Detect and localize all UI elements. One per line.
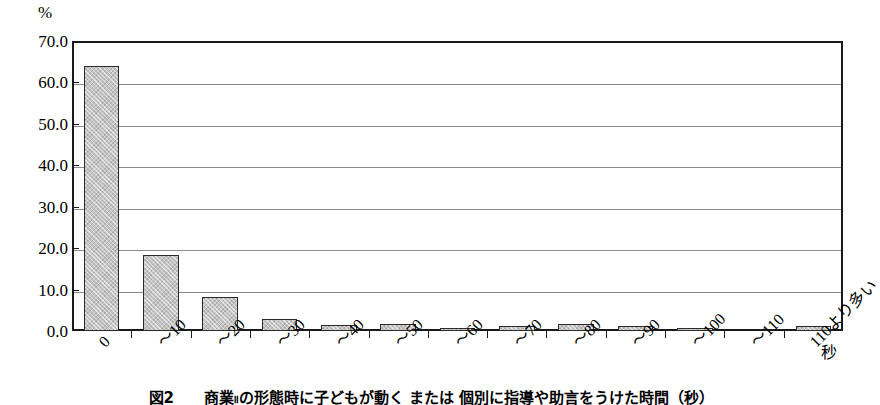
gridline xyxy=(74,209,841,210)
y-axis-unit-label: % xyxy=(38,4,52,21)
gridline xyxy=(74,167,841,168)
y-axis-tick-mark xyxy=(72,290,79,291)
y-axis-tick-label: 10.0 xyxy=(2,282,68,299)
y-axis-tick-label: 0.0 xyxy=(2,323,68,340)
y-axis-tick-mark xyxy=(72,82,79,83)
y-axis-tick-label: 70.0 xyxy=(2,33,68,50)
x-axis-unit-label: 秒 xyxy=(821,345,837,361)
y-axis-tick-label: 60.0 xyxy=(2,74,68,91)
x-axis-tick-label: 0 xyxy=(96,333,113,350)
y-axis-tick-label: 50.0 xyxy=(2,116,68,133)
y-axis-tick-mark xyxy=(72,165,79,166)
x-axis-ticks: 0～10～20～30～40～50～60～70～80～90～100～110110よ… xyxy=(72,331,843,391)
y-axis-tick-label: 20.0 xyxy=(2,240,68,257)
y-axis-tick-mark xyxy=(72,207,79,208)
gridline xyxy=(74,250,841,251)
plot-area xyxy=(72,41,843,331)
y-axis-ticks: 0.010.020.030.040.050.060.070.0 xyxy=(0,41,68,331)
y-axis-tick-label: 40.0 xyxy=(2,157,68,174)
gridline xyxy=(74,126,841,127)
gridline xyxy=(74,84,841,85)
gridline xyxy=(74,292,841,293)
y-axis-tick-mark xyxy=(72,124,79,125)
figure-caption: 図2 商業။の形態時に子どもが動く または 個別に指導や助言をうけた時間（秒） xyxy=(0,389,863,405)
y-axis-tick-mark xyxy=(72,248,79,249)
y-axis-tick-label: 30.0 xyxy=(2,199,68,216)
